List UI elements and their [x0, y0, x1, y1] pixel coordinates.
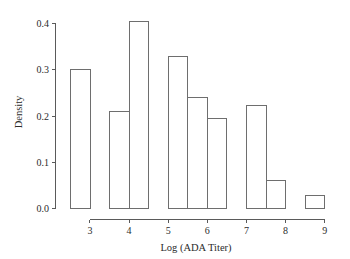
y-axis-tick-label: 0.0	[37, 203, 50, 214]
x-axis-tick-label: 6	[205, 225, 210, 236]
y-axis-tick-label: 0.3	[37, 64, 50, 75]
y-axis-title: Density	[13, 95, 24, 128]
x-axis-tick-label: 4	[127, 225, 132, 236]
y-axis-tick-label: 0.2	[37, 111, 50, 122]
chart-background	[0, 0, 350, 259]
x-axis-tick-label: 5	[166, 225, 171, 236]
histogram-svg: 3456789 0.00.10.20.30.4 Log (ADA Titer)D…	[0, 0, 350, 259]
histogram-figure: 3456789 0.00.10.20.30.4 Log (ADA Titer)D…	[0, 0, 350, 259]
x-axis-tick-label: 3	[87, 225, 92, 236]
x-axis-tick-label: 8	[283, 225, 288, 236]
y-axis-tick-label: 0.4	[37, 18, 50, 29]
x-axis-title: Log (ADA Titer)	[160, 242, 232, 254]
y-axis-tick-label: 0.1	[37, 157, 50, 168]
x-axis-tick-label: 7	[244, 225, 249, 236]
x-axis-tick-label: 9	[322, 225, 327, 236]
